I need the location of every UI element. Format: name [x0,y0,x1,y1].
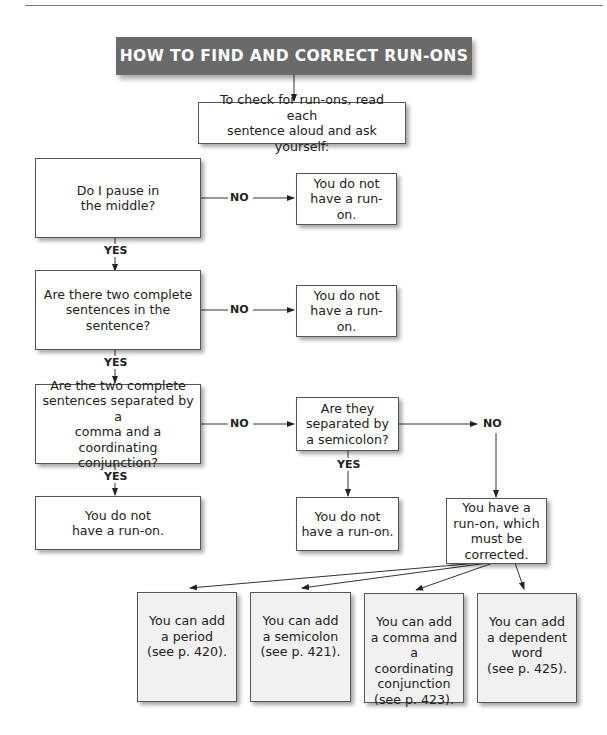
no-label: NO [228,418,251,430]
result-no-runon-box: You do not have a run-on. [296,173,397,225]
fix-period-box: You can add a period (see p. 420). [137,592,237,702]
question-pause-box: Do I pause in the middle? [35,158,201,238]
result-no-runon-box: You do not have a run-on. [35,496,201,550]
result-runon-box: You have a run-on, which must be correct… [446,498,547,564]
yes-label: YES [102,471,129,483]
fix-semicolon-box: You can add a semicolon (see p. 421). [250,592,351,702]
no-label: NO [228,304,251,316]
flowchart-title: HOW TO FIND AND CORRECT RUN-ONS [116,37,472,75]
question-two-sentences-box: Are there two complete sentences in the … [35,270,201,350]
result-no-runon-box: You do not have a run-on. [296,285,397,337]
fix-dependent-word-box: You can add a dependent word (see p. 425… [477,593,577,703]
yes-label: YES [335,459,362,471]
intro-box: To check for run-ons, read each sentence… [198,102,406,144]
no-label: NO [481,418,504,430]
result-no-runon-box: You do not have a run-on. [296,497,399,551]
yes-label: YES [102,245,129,257]
no-label: NO [228,192,251,204]
yes-label: YES [102,357,129,369]
question-comma-conjunction-box: Are the two complete sentences separated… [35,384,201,464]
fix-comma-conjunction-box: You can add a comma and a coordinating c… [364,593,464,703]
question-semicolon-box: Are they separated by a semicolon? [296,397,399,451]
title-text: HOW TO FIND AND CORRECT RUN-ONS [120,47,469,65]
